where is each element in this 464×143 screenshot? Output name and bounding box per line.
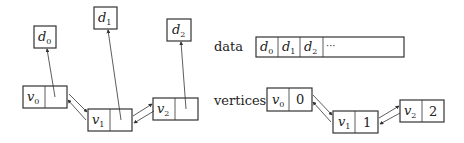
vertex-node-v1: v1 (88, 109, 132, 131)
data-node-d1: d1 (94, 7, 117, 29)
svg-text:1: 1 (363, 115, 371, 130)
svg-text:0: 0 (296, 92, 304, 107)
vertices-label: vertices (213, 93, 266, 108)
diagram-canvas: d0 d1 d2 v0 v1 v2 (0, 0, 464, 143)
right-diagram: data d0 d1 d2 ··· vertices v0 0 v1 1 (213, 37, 444, 133)
data-ellipsis: ··· (326, 40, 336, 51)
link-a-v2-v1 (380, 113, 400, 124)
vertex-node-v2: v2 (153, 98, 198, 120)
data-array: d0 d1 d2 ··· (256, 37, 404, 57)
data-label: data (214, 39, 243, 54)
array-vertex-v1: v1 1 (333, 111, 378, 133)
link-v1-v0 (68, 100, 86, 120)
data-node-d2: d2 (167, 19, 191, 41)
pointer-v1-d1 (108, 30, 121, 120)
link-v0-v1 (69, 94, 87, 112)
data-node-d0: d0 (34, 26, 56, 48)
vertex-node-v0: v0 (23, 86, 67, 108)
link-a-v1-v2 (379, 106, 399, 118)
array-vertex-v2: v2 2 (400, 100, 444, 122)
array-vertex-v0: v0 0 (267, 88, 312, 111)
link-v2-v1 (134, 111, 154, 123)
left-diagram: d0 d1 d2 v0 v1 v2 (23, 7, 198, 131)
svg-text:2: 2 (429, 104, 437, 119)
